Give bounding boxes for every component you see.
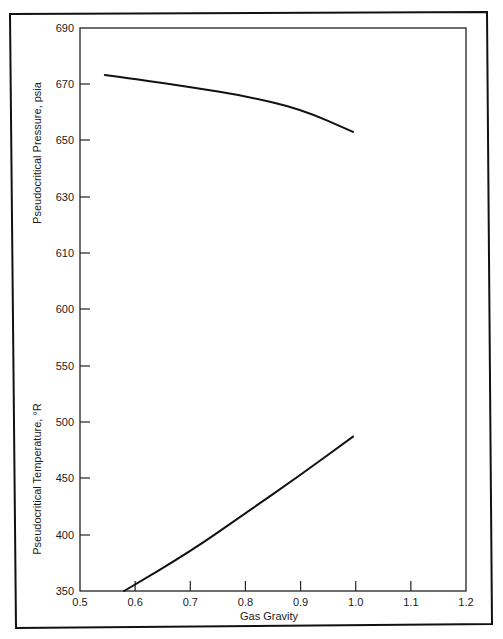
x-tick-label: 0.6 xyxy=(127,596,142,608)
y-tick-label: 500 xyxy=(56,416,74,428)
y-tick-label: 630 xyxy=(56,191,74,203)
x-tick-label: 0.9 xyxy=(293,596,308,608)
x-tick-label: 1.0 xyxy=(348,596,363,608)
y-axis-ticks: 690670650630610600550500450400350 xyxy=(56,22,90,597)
y-axis-label-temperature: Pseudocritical Temperature, °R xyxy=(31,403,43,555)
chart-figure: 690670650630610600550500450400350 0.50.6… xyxy=(0,0,503,639)
y-tick-label: 400 xyxy=(56,529,74,541)
y-tick-label: 450 xyxy=(56,472,74,484)
x-tick-label: 0.7 xyxy=(183,596,198,608)
series-layer xyxy=(105,75,353,591)
y-tick-label: 350 xyxy=(56,585,74,597)
y-axis-label-pressure: Pseudocritical Pressure, psia xyxy=(31,81,43,224)
pressure-curve xyxy=(105,75,353,132)
x-tick-label: 0.5 xyxy=(72,596,87,608)
x-tick-label: 0.8 xyxy=(238,596,253,608)
y-tick-label: 670 xyxy=(56,78,74,90)
x-tick-label: 1.2 xyxy=(458,596,473,608)
x-axis-label: Gas Gravity xyxy=(240,610,299,622)
chart-canvas: 690670650630610600550500450400350 0.50.6… xyxy=(0,0,503,639)
x-tick-label: 1.1 xyxy=(403,596,418,608)
y-tick-label: 610 xyxy=(56,247,74,259)
plot-area xyxy=(80,28,466,591)
temperature-line xyxy=(124,437,353,591)
y-tick-label: 550 xyxy=(56,360,74,372)
y-tick-label: 650 xyxy=(56,134,74,146)
y-tick-label: 690 xyxy=(56,22,74,34)
y-tick-label: 600 xyxy=(56,303,74,315)
